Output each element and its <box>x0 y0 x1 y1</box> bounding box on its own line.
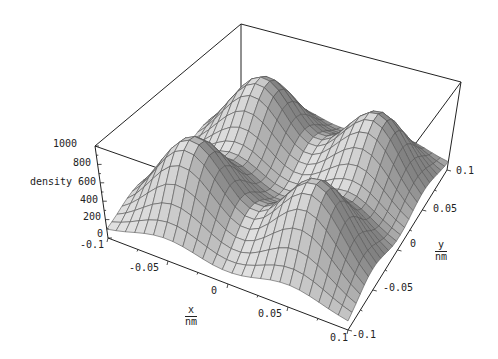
y-tick-label: 0.05 <box>433 204 457 214</box>
x-axis-label-num: x <box>185 305 197 317</box>
z-tick-label: 400 <box>80 195 98 205</box>
z-axis-label: density <box>30 177 72 187</box>
z-tick-label: 0 <box>97 229 103 239</box>
x-tick-label: -0.1 <box>80 240 104 250</box>
x-tick-label: 0.05 <box>258 309 282 319</box>
y-tick-label: -0.05 <box>383 283 413 293</box>
y-axis-label-num: y <box>435 240 447 252</box>
z-tick-label: 600 <box>78 177 96 187</box>
y-axis-label-den: nm <box>435 252 447 263</box>
surface-plot <box>0 0 498 359</box>
y-tick-label: -0.1 <box>352 330 376 340</box>
y-tick-label: 0.1 <box>456 166 474 176</box>
x-axis-label: x nm <box>185 305 197 327</box>
x-tick-label: 0.1 <box>330 333 348 343</box>
x-tick-label: 0 <box>211 286 217 296</box>
z-tick-label: 1000 <box>53 139 77 149</box>
z-tick-label: 200 <box>83 212 101 222</box>
y-axis-label: y nm <box>435 240 447 262</box>
y-tick-label: 0 <box>410 239 416 249</box>
x-tick-label: -0.05 <box>129 263 159 273</box>
x-axis-label-den: nm <box>185 317 197 328</box>
z-tick-label: 800 <box>73 158 91 168</box>
